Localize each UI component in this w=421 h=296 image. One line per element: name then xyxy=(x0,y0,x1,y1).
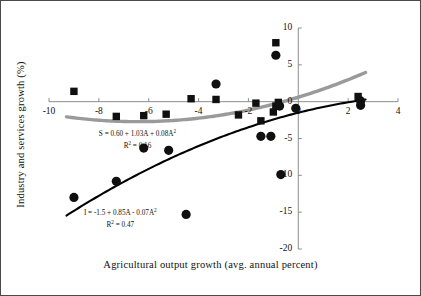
data-point-square xyxy=(354,93,361,100)
x-axis-tick-label: -10 xyxy=(37,106,61,116)
services-r2-value: = 0.16 xyxy=(131,142,151,150)
industry-r2-line: R2 = 0.47 xyxy=(84,219,157,229)
data-point-square xyxy=(70,88,77,95)
services-equation-annotation: S = 0.60 + 1.03A + 0.08A2 R2 = 0.16 xyxy=(99,128,176,150)
data-point-square xyxy=(212,96,219,103)
x-axis-tick-label: 0 xyxy=(286,106,310,116)
x-axis-tick-label: -2 xyxy=(236,106,260,116)
data-point-square xyxy=(272,39,279,46)
figure-frame: Agricultural output growth (avg. annual … xyxy=(0,0,421,296)
services-r2-line: R2 = 0.16 xyxy=(99,140,176,150)
x-axis-title: Agricultural output growth (avg. annual … xyxy=(1,259,420,270)
y-axis-tick-label: -10 xyxy=(264,169,292,179)
y-axis-tick-label: -15 xyxy=(264,206,292,216)
services-equation-text: S = 0.60 + 1.03A + 0.08A xyxy=(99,131,174,139)
data-point-square xyxy=(113,113,120,120)
x-axis-tick-label: -8 xyxy=(87,106,111,116)
industry-r2-value: = 0.47 xyxy=(114,221,134,229)
data-point-square xyxy=(187,95,194,102)
y-axis-title: Industry and services growth (%) xyxy=(15,30,26,240)
industry-equation-exponent: 2 xyxy=(154,207,157,213)
data-point-circle xyxy=(69,193,78,202)
x-axis-tick-label: 4 xyxy=(386,106,410,116)
industry-equation-text: I = -1.5 + 0.85A - 0.07A xyxy=(84,210,154,218)
x-axis-tick-label: -4 xyxy=(187,106,211,116)
x-axis-tick-label: 2 xyxy=(336,106,360,116)
data-point-square xyxy=(257,117,264,124)
industry-equation-annotation: I = -1.5 + 0.85A - 0.07A2 R2 = 0.47 xyxy=(84,207,157,229)
y-axis-tick-label: 5 xyxy=(264,59,292,69)
y-axis-tick-label: 10 xyxy=(264,22,292,32)
data-point-circle xyxy=(182,210,191,219)
data-point-circle xyxy=(112,177,121,186)
services-equation-exponent: 2 xyxy=(174,128,177,134)
y-axis-tick-label: -20 xyxy=(264,243,292,253)
scatter-plot-canvas xyxy=(1,1,421,296)
data-point-square xyxy=(162,110,169,117)
y-axis-tick-label: 0 xyxy=(264,96,292,106)
x-axis-tick-label: -6 xyxy=(137,106,161,116)
data-point-circle xyxy=(211,79,220,88)
y-axis-tick-label: -5 xyxy=(264,133,292,143)
